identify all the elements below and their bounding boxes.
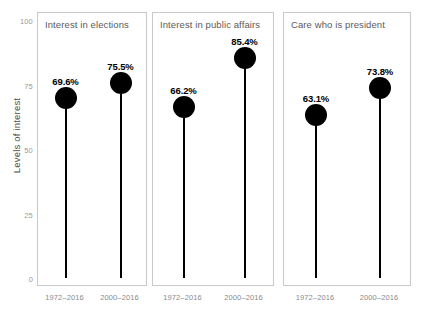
panel-plot-area: 63.1%73.8%	[284, 13, 410, 285]
lollipop-stem	[315, 115, 317, 278]
y-tick-label: 100	[3, 17, 33, 26]
lollipop-dot	[55, 87, 77, 109]
lollipop-chart: 0255075100 Levels of interest Interest i…	[0, 0, 421, 314]
data-value-label: 73.8%	[367, 66, 393, 77]
panel-plot-area: 66.2%85.4%	[153, 13, 273, 285]
data-value-label: 69.6%	[52, 76, 78, 87]
y-tick-label: 0	[3, 275, 33, 284]
lollipop-stem	[183, 107, 185, 278]
lollipop-dot	[173, 96, 195, 118]
lollipop-stem	[120, 83, 122, 278]
panel-3: Care who is president63.1%73.8%	[283, 12, 411, 286]
x-tick-label: 2000–2016	[360, 293, 398, 302]
panel-2: Interest in public affairs66.2%85.4%	[152, 12, 274, 286]
panel-plot-area: 69.6%75.5%	[38, 13, 146, 285]
lollipop-stem	[379, 88, 381, 278]
data-value-label: 63.1%	[303, 93, 329, 104]
lollipop-dot	[234, 47, 256, 69]
panel-1: Interest in elections69.6%75.5%	[37, 12, 147, 286]
lollipop-stem	[65, 98, 67, 278]
x-tick-label: 2000–2016	[100, 293, 138, 302]
y-axis-title: Levels of interest	[11, 76, 22, 196]
data-value-label: 75.5%	[107, 61, 133, 72]
data-value-label: 66.2%	[170, 85, 196, 96]
x-tick-label: 1972–2016	[163, 293, 201, 302]
x-tick-label: 1972–2016	[45, 293, 83, 302]
lollipop-dot	[305, 104, 327, 126]
x-tick-label: 1972–2016	[296, 293, 334, 302]
lollipop-dot	[110, 72, 132, 94]
x-tick-label: 2000–2016	[224, 293, 262, 302]
y-tick-label: 25	[3, 210, 33, 219]
lollipop-dot	[369, 77, 391, 99]
data-value-label: 85.4%	[231, 36, 257, 47]
lollipop-stem	[244, 58, 246, 278]
